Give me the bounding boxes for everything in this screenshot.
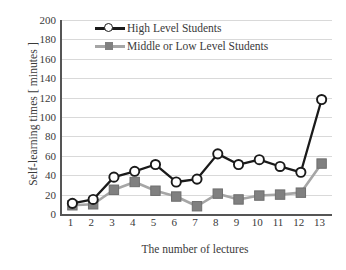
data-point-square xyxy=(130,177,139,186)
data-point-circle xyxy=(89,195,98,204)
y-tick-label: 20 xyxy=(16,189,56,200)
data-point-circle xyxy=(192,174,201,183)
y-tick-label: 140 xyxy=(16,73,56,84)
data-point-circle xyxy=(275,162,284,171)
y-tick-label: 200 xyxy=(16,15,56,26)
data-point-square xyxy=(172,192,181,201)
y-tick-label: 60 xyxy=(16,150,56,161)
y-tick-label: 40 xyxy=(16,170,56,181)
legend: High Level Students Middle or Low Level … xyxy=(95,19,310,55)
y-tick-label: 0 xyxy=(16,209,56,220)
legend-label-middle-or-low-level-students: Middle or Low Level Students xyxy=(125,40,268,52)
data-point-square xyxy=(151,186,160,195)
data-point-square xyxy=(213,189,222,198)
legend-key-middle-or-low-level-students xyxy=(95,39,125,53)
y-tick-label: 120 xyxy=(16,92,56,103)
circle-marker-icon xyxy=(104,23,113,32)
chart-figure: Self-learning times [ minutes ] 02040608… xyxy=(0,0,346,270)
data-point-square xyxy=(234,195,243,204)
data-point-circle xyxy=(317,95,326,104)
data-point-circle xyxy=(296,168,305,177)
legend-item-middle-or-low-level-students: Middle or Low Level Students xyxy=(95,37,310,55)
x-axis-tick-labels: 12345678910111213 xyxy=(60,217,330,235)
x-tick-label: 13 xyxy=(305,217,335,228)
data-point-square xyxy=(317,159,326,168)
data-point-circle xyxy=(151,160,160,169)
legend-key-high-level-students xyxy=(95,21,125,35)
data-point-square xyxy=(296,188,305,197)
data-point-square xyxy=(255,191,264,200)
data-point-square xyxy=(109,185,118,194)
y-tick-label: 180 xyxy=(16,34,56,45)
data-point-circle xyxy=(255,155,264,164)
y-tick-label: 160 xyxy=(16,53,56,64)
data-point-circle xyxy=(213,149,222,158)
data-point-circle xyxy=(130,167,139,176)
data-point-square xyxy=(192,202,201,211)
legend-item-high-level-students: High Level Students xyxy=(95,19,310,37)
square-marker-icon xyxy=(105,42,113,50)
data-point-circle xyxy=(68,199,77,208)
data-point-square xyxy=(275,190,284,199)
x-axis-title: The number of lectures xyxy=(60,243,330,255)
data-point-circle xyxy=(172,177,181,186)
data-point-circle xyxy=(109,173,118,182)
y-tick-label: 100 xyxy=(16,112,56,123)
legend-label-high-level-students: High Level Students xyxy=(125,22,222,34)
data-point-circle xyxy=(234,160,243,169)
y-tick-label: 80 xyxy=(16,131,56,142)
